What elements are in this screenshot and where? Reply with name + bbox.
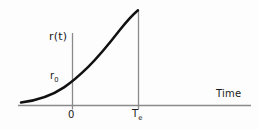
- x-tick-label-origin: 0: [68, 110, 75, 120]
- y-axis-label: r(t): [49, 31, 67, 42]
- initial-value-label: r0: [50, 71, 59, 81]
- x-axis-label: Time: [216, 89, 241, 99]
- x-tick-label-end-time: Te: [132, 109, 143, 119]
- plot-canvas: [0, 0, 258, 129]
- exponential-growth-figure: r(t) r0 0 Te Time: [0, 0, 258, 129]
- growth-curve: [21, 10, 138, 102]
- initial-value-subscript: 0: [54, 76, 59, 84]
- end-time-subscript: e: [138, 114, 142, 122]
